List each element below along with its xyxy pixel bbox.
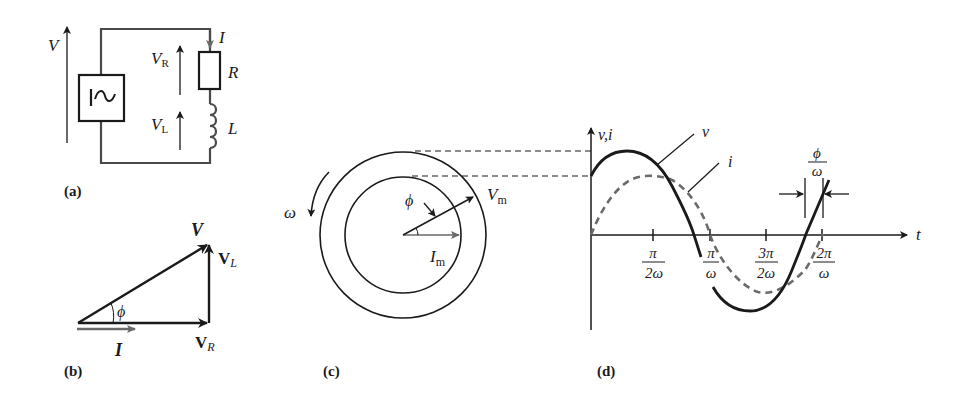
v-curve-label: v (702, 123, 710, 140)
voltage-waveform (591, 151, 701, 257)
inductor (210, 104, 216, 148)
phase-num: ϕ (813, 145, 821, 161)
ac-source-box (79, 75, 124, 121)
label-im: Im (429, 247, 446, 269)
y-axis-label: v,i (598, 126, 612, 143)
label-vl: VL (151, 115, 168, 135)
tick-label-2pi-over-w: 2π ω (813, 245, 835, 281)
phase-den: ω (812, 163, 823, 179)
svg-text:3π: 3π (757, 245, 774, 261)
phi-angle-arc (416, 228, 418, 235)
label-phi: ϕ (405, 192, 413, 210)
svg-text:π: π (707, 245, 715, 261)
label-phi: ϕ (117, 303, 125, 321)
phi-angle-arc (111, 303, 114, 323)
label-v: V (48, 36, 61, 55)
v-phasor (78, 245, 207, 323)
label-vr: VR (151, 49, 169, 69)
phase-shift-marker: ϕ ω (779, 145, 849, 218)
label-i: I (218, 28, 226, 47)
panel-tag-b: (b) (64, 363, 82, 380)
vm-phasor (403, 197, 473, 235)
rl-circuit-figure: V VR VL I R L (a) ϕ V VL VR I (b) ω (0, 0, 963, 396)
svg-text:2ω: 2ω (757, 265, 775, 281)
t-axis-label: t (916, 225, 922, 244)
tick-label-pi-over-2w: π 2ω (642, 245, 665, 281)
panel-a-circuit: V VR VL I R L (a) (48, 27, 239, 200)
rotation-arrow-icon (311, 172, 329, 216)
label-v: V (191, 220, 205, 240)
svg-text:2ω: 2ω (645, 265, 663, 281)
resistor (199, 52, 220, 89)
label-vm: Vm (487, 185, 507, 207)
ac-source-icon (91, 89, 115, 106)
phi-pointer-arrow-icon (424, 203, 435, 216)
label-l: L (227, 119, 237, 138)
svg-text:ω: ω (706, 265, 717, 281)
label-vl: VL (218, 249, 237, 270)
label-vr: VR (195, 333, 215, 354)
panel-d-waveforms: v,i t v i ϕ ω π (591, 123, 922, 380)
tick-label-3pi-over-2w: 3π 2ω (755, 245, 778, 281)
panel-tag-a: (a) (64, 183, 82, 200)
label-r: R (227, 63, 239, 82)
panel-c-rotating-phasors: ω ϕ Vm Im (c) (284, 151, 591, 380)
i-curve-label: i (728, 153, 732, 170)
label-i: I (114, 340, 123, 360)
svg-text:ω: ω (819, 265, 830, 281)
v-leader-line (657, 134, 694, 165)
panel-tag-c: (c) (323, 363, 340, 380)
panel-tag-d: (d) (597, 363, 615, 380)
label-omega: ω (284, 203, 296, 222)
i-leader-line (688, 163, 719, 192)
svg-text:π: π (649, 245, 657, 261)
panel-b-phasor-diagram: ϕ V VL VR I (b) (64, 220, 237, 380)
svg-text:2π: 2π (816, 245, 832, 261)
